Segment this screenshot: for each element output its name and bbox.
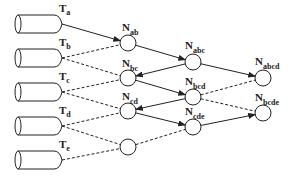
node-Ncd: Ncd [120, 90, 139, 119]
edge-Td-Nde [62, 126, 120, 145]
edges [62, 24, 255, 160]
edge-Te-Nde [62, 149, 120, 160]
node-Ncde: Ncde [185, 105, 205, 135]
node-Nabcd: Nabcd [255, 55, 280, 86]
cylinder-end [15, 117, 21, 135]
network-diagram: TaTbTcTdTe NabNbcNcdNabcNbcdNcdeNabcdNbc… [0, 0, 306, 182]
edge-Ncd-Ncde [136, 113, 185, 125]
node-circle [120, 35, 136, 51]
node-Nde [120, 139, 136, 155]
node-circle [185, 119, 201, 135]
cylinder-end [15, 49, 21, 67]
node-Nbcde: Nbcde [255, 91, 279, 121]
cylinder-end [15, 15, 21, 33]
node-circle [255, 105, 271, 121]
node-Nbc: Nbc [120, 57, 138, 86]
cylinder-end [15, 151, 21, 169]
node-circle [185, 89, 201, 105]
source-cylinder-Ta: Ta [15, 2, 70, 33]
edge-Nabc-Nbc [136, 64, 185, 76]
edge-Ncde-Nbcde [201, 115, 255, 126]
edge-Tb-Nbc [62, 58, 120, 76]
node-label: Nbcde [255, 91, 279, 107]
edge-Nde-Ncde [136, 129, 186, 144]
node-circle [255, 70, 271, 86]
edge-Nbcd-Ncd [136, 99, 185, 110]
source-label: Te [59, 138, 70, 153]
source-label: Tb [59, 36, 71, 51]
nodes: NabNbcNcdNabcNbcdNcdeNabcdNbcde [120, 21, 280, 155]
edge-Tc-Nbc [62, 80, 120, 92]
node-label: Nabcd [255, 55, 280, 71]
cylinder-body [18, 49, 62, 67]
source-label: Ta [59, 2, 70, 17]
cylinder-body [18, 151, 62, 169]
sources: TaTbTcTdTe [15, 2, 71, 169]
source-label: Td [59, 104, 71, 119]
source-cylinder-Te: Te [15, 138, 70, 169]
source-cylinder-Tb: Tb [15, 36, 71, 67]
edge-Tc-Ncd [62, 92, 120, 109]
edge-Nab-Nabc [136, 45, 186, 60]
edge-Nbcd-Nabcd [201, 80, 256, 95]
node-label: Nabc [185, 39, 205, 55]
node-Nabc: Nabc [185, 39, 205, 70]
node-Nbcd: Nbcd [185, 75, 206, 105]
cylinder-body [18, 83, 62, 101]
source-cylinder-Td: Td [15, 104, 71, 135]
node-label: Ncde [185, 105, 205, 121]
cylinder-end [15, 83, 21, 101]
node-circle [120, 139, 136, 155]
cylinder-body [18, 117, 62, 135]
source-label: Tc [59, 70, 70, 85]
node-Nab: Nab [120, 21, 139, 51]
edge-Nbc-Nbcd [136, 80, 186, 95]
source-cylinder-Tc: Tc [15, 70, 70, 101]
node-label: Nab [122, 21, 139, 37]
cylinder-body [18, 15, 62, 33]
edge-Ta-Nab [62, 24, 120, 41]
node-label: Nbcd [185, 75, 206, 91]
edge-Nbcd-Nbcde [201, 99, 255, 111]
node-circle [185, 54, 201, 70]
edge-Nabc-Nabcd [201, 64, 255, 76]
